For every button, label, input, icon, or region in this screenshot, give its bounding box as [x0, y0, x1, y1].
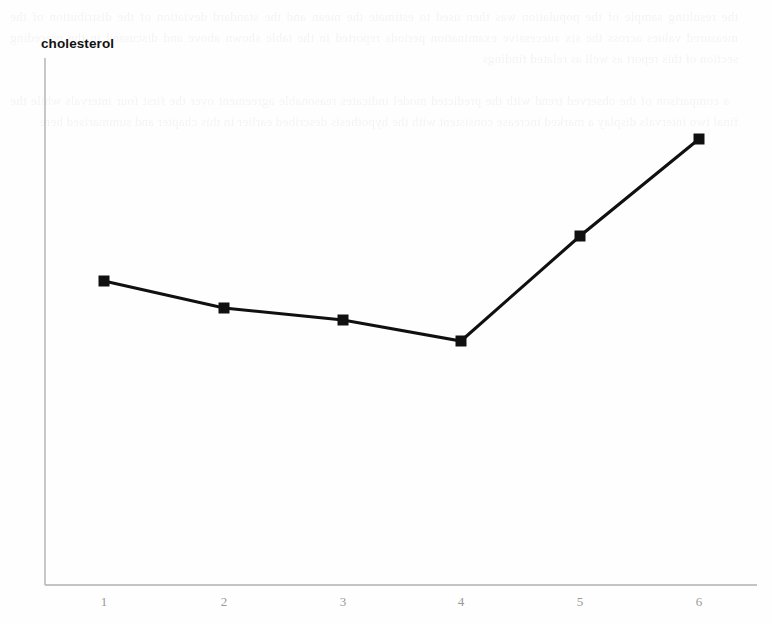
x-tick-label: 2	[221, 594, 228, 610]
chart-page: the resulting sample of the population w…	[0, 0, 772, 624]
series-line-cholesterol	[104, 139, 699, 341]
data-point-marker	[338, 315, 349, 326]
data-point-markers	[99, 134, 705, 347]
data-point-marker	[99, 276, 110, 287]
data-point-marker	[219, 303, 230, 314]
line-chart-plot	[0, 0, 772, 624]
x-tick-label: 1	[101, 594, 108, 610]
data-point-marker	[575, 231, 586, 242]
data-point-marker	[456, 336, 467, 347]
x-tick-label: 3	[340, 594, 347, 610]
x-tick-label: 6	[696, 594, 703, 610]
x-tick-label: 4	[458, 594, 465, 610]
data-point-marker	[694, 134, 705, 145]
x-tick-label: 5	[577, 594, 584, 610]
